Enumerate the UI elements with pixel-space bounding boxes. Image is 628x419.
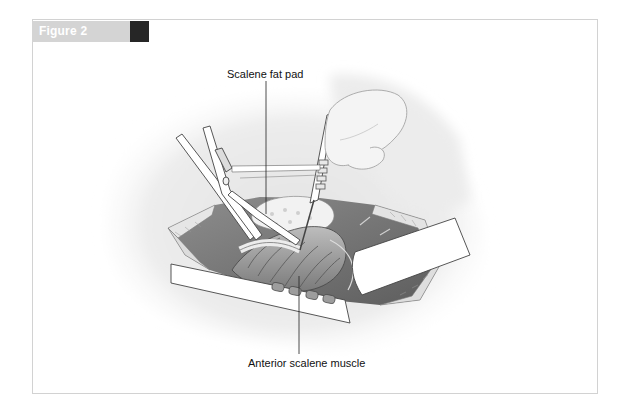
label-scalene-fat-pad: Scalene fat pad <box>227 68 303 80</box>
label-anterior-scalene-muscle: Anterior scalene muscle <box>248 357 365 369</box>
